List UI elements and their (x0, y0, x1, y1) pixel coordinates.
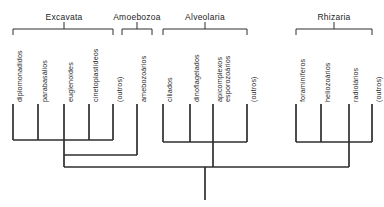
tip-label-dinoflagelados: dinoflagelados (193, 54, 201, 102)
clade-bracket-excavata (13, 29, 113, 35)
tip-branches-layer (13, 104, 372, 155)
clade-brackets-layer (13, 22, 372, 35)
clade-bracket-alveolaria (163, 29, 247, 35)
tip-label-heliozoarios: heliozoários (324, 62, 332, 102)
clade-label-alveolaria: Alveolaria (185, 12, 225, 22)
clade-label-rhizaria: Rhizaria (317, 12, 350, 22)
internal-stems-layer (64, 140, 349, 200)
tip-label-amebozoarios: amebozoários (140, 56, 148, 102)
clade-label-excavata: Excavata (46, 12, 83, 22)
tip-label-outros-alveolaria: (outros) (250, 76, 258, 102)
tip-label-diplomonadidos: diplomonadidos (16, 50, 24, 102)
cladogram-figure: ExcavataAmoebozoaAlveolariaRhizaria dipl… (0, 0, 384, 207)
tip-label-parabasalios: parabasálios (41, 60, 49, 102)
tip-label-apicomplexos: apicomplexosesporozoários (216, 56, 232, 102)
tip-label-cinetoplastideos: cinetoplastídeos (92, 48, 100, 102)
tip-label-ciliados: ciliados (166, 77, 174, 102)
tree-lines (0, 0, 384, 207)
clade-bracket-rhizaria (296, 29, 372, 35)
tip-label-radiolarios: radiolários (352, 68, 360, 102)
internal-bars-layer (13, 140, 372, 167)
tip-label-outros-rhizaria: (outros) (375, 76, 383, 102)
clade-label-amoebozoa: Amoebozoa (113, 12, 161, 22)
clade-bracket-amoebozoa (122, 29, 152, 35)
tip-label-euglenoides: euglenoides (67, 62, 75, 102)
tip-label-foraminiferos: foraminíferos (299, 59, 307, 102)
tip-label-outros-excavata: (outros) (116, 76, 124, 102)
